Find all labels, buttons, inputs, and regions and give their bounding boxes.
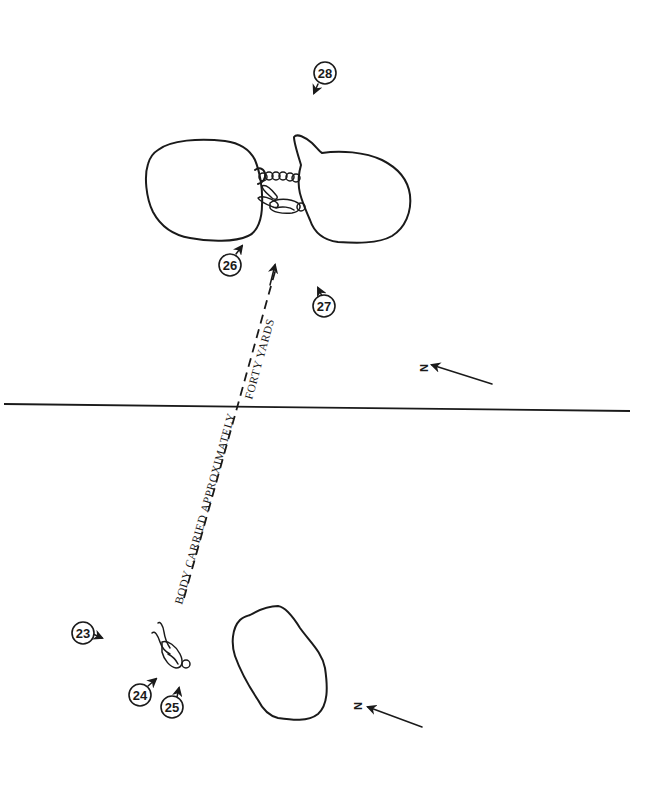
body-figure-upper: [258, 186, 305, 214]
north-label-lower: N: [352, 702, 364, 710]
boulder-upper-left: [146, 140, 262, 241]
boulder-lower: [233, 606, 327, 720]
svg-text:25: 25: [165, 700, 179, 715]
svg-text:23: 23: [76, 626, 90, 641]
svg-text:24: 24: [133, 688, 148, 703]
north-arrow-upper: N: [418, 364, 492, 384]
north-arrow-lower: N: [352, 702, 422, 727]
boulder-upper-right: [294, 135, 410, 242]
chain-links: [259, 172, 300, 182]
evidence-marker-25: 25: [161, 688, 183, 718]
evidence-marker-24: 24: [129, 679, 156, 706]
scene-divider-line: [4, 404, 630, 411]
evidence-marker-27: 27: [313, 288, 335, 317]
svg-text:26: 26: [223, 258, 237, 273]
evidence-marker-26: 26: [219, 246, 242, 276]
body-figure-lower: [152, 622, 190, 668]
evidence-marker-23: 23: [72, 622, 102, 644]
carry-label-body-carried: BODY CARRIED APPROXIMATELY: [172, 411, 237, 605]
svg-text:27: 27: [317, 299, 331, 314]
svg-text:28: 28: [318, 66, 332, 81]
evidence-marker-28: 28: [314, 62, 336, 93]
scene-diagram: 28 26 27 N BODY CARRIED APPROXIMATELY FO…: [0, 0, 662, 793]
north-label-upper: N: [418, 364, 430, 372]
